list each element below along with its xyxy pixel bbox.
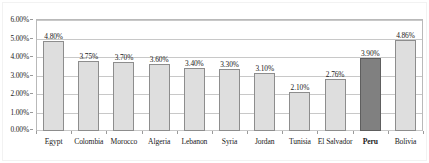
x-label-morocco: Morocco xyxy=(106,136,141,152)
bar-slot: 3.75% xyxy=(71,19,106,131)
x-tick-mark xyxy=(282,131,283,134)
bar-lebanon[interactable]: 3.40% xyxy=(184,68,205,131)
bar-value-label: 3.30% xyxy=(220,60,239,69)
bar-slot: 3.30% xyxy=(212,19,247,131)
x-tick-mark xyxy=(71,131,72,134)
y-tick-mark xyxy=(30,75,33,76)
x-label-lebanon: Lebanon xyxy=(177,136,212,152)
y-axis: 6.00% 5.00% 4.00% 3.00% 2.00% 1.00% 0.00… xyxy=(0,19,33,131)
bar-bolivia[interactable]: 4.86% xyxy=(395,40,416,131)
bar-jordan[interactable]: 3.10% xyxy=(254,73,275,131)
bar-slot: 4.80% xyxy=(36,19,71,131)
bar-slot: 4.86% xyxy=(388,19,423,131)
bar-value-label: 3.60% xyxy=(150,55,169,64)
x-axis-ticks xyxy=(36,131,423,135)
bar-slot: 3.60% xyxy=(142,19,177,131)
bar-syria[interactable]: 3.30% xyxy=(219,69,240,131)
y-tick-mark xyxy=(30,56,33,57)
bar-algeria[interactable]: 3.60% xyxy=(149,64,170,131)
bar-slot: 2.76% xyxy=(318,19,353,131)
x-tick-mark xyxy=(36,131,37,134)
x-tick-mark xyxy=(388,131,389,134)
bars-layer: 4.80% 3.75% 3.70% 3.60% 3.40% 3.30% xyxy=(36,19,423,131)
x-label-algeria: Algeria xyxy=(142,136,177,152)
y-tick-label: 5.00% xyxy=(10,33,29,42)
bar-value-label: 3.70% xyxy=(115,53,134,62)
y-tick-mark xyxy=(30,112,33,113)
bar-value-label: 3.40% xyxy=(185,59,204,68)
x-tick-mark xyxy=(212,131,213,134)
x-axis-labels: Egypt Colombia Morocco Algeria Lebanon S… xyxy=(36,136,423,152)
bar-peru[interactable]: 3.90% xyxy=(360,58,381,131)
x-tick-mark xyxy=(353,131,354,134)
y-tick-label: 4.00% xyxy=(10,52,29,61)
bar-value-label: 2.76% xyxy=(326,70,345,79)
y-tick-label: 2.00% xyxy=(10,89,29,98)
bar-value-label: 3.10% xyxy=(255,64,274,73)
bar-colombia[interactable]: 3.75% xyxy=(78,61,99,131)
x-tick-mark xyxy=(177,131,178,134)
x-tick-mark xyxy=(106,131,107,134)
x-label-jordan: Jordan xyxy=(247,136,282,152)
bar-slot: 3.40% xyxy=(177,19,212,131)
x-label-el-salvador: El Salvador xyxy=(318,136,353,152)
y-tick-label: 3.00% xyxy=(10,70,29,79)
x-label-colombia: Colombia xyxy=(71,136,106,152)
y-tick-mark xyxy=(30,38,33,39)
y-tick-mark xyxy=(30,19,33,20)
bar-el-salvador[interactable]: 2.76% xyxy=(325,79,346,131)
bar-value-label: 3.75% xyxy=(79,52,98,61)
bar-value-label: 4.86% xyxy=(396,31,415,40)
bar-morocco[interactable]: 3.70% xyxy=(113,62,134,131)
x-tick-mark xyxy=(317,131,318,134)
x-tick-mark xyxy=(142,131,143,134)
x-label-bolivia: Bolivia xyxy=(388,136,423,152)
y-tick-mark xyxy=(30,129,33,130)
y-tick-label: 0.00% xyxy=(10,125,29,134)
bar-value-label: 2.10% xyxy=(291,83,310,92)
x-label-tunisia: Tunisia xyxy=(282,136,317,152)
bar-chart: 6.00% 5.00% 4.00% 3.00% 2.00% 1.00% 0.00… xyxy=(0,0,429,163)
y-tick-mark xyxy=(30,93,33,94)
x-label-syria: Syria xyxy=(212,136,247,152)
y-tick-label: 6.00% xyxy=(10,15,29,24)
x-tick-mark xyxy=(423,131,424,134)
bar-value-label: 4.80% xyxy=(44,32,63,41)
x-label-peru: Peru xyxy=(353,136,388,152)
bar-slot: 3.10% xyxy=(247,19,282,131)
bar-slot: 3.70% xyxy=(106,19,141,131)
bar-value-label: 3.90% xyxy=(361,49,380,58)
y-tick-label: 1.00% xyxy=(10,107,29,116)
x-tick-mark xyxy=(247,131,248,134)
bar-slot: 3.90% xyxy=(353,19,388,131)
bar-slot: 2.10% xyxy=(282,19,317,131)
bar-tunisia[interactable]: 2.10% xyxy=(289,92,310,131)
bar-egypt[interactable]: 4.80% xyxy=(43,41,64,131)
x-label-egypt: Egypt xyxy=(36,136,71,152)
